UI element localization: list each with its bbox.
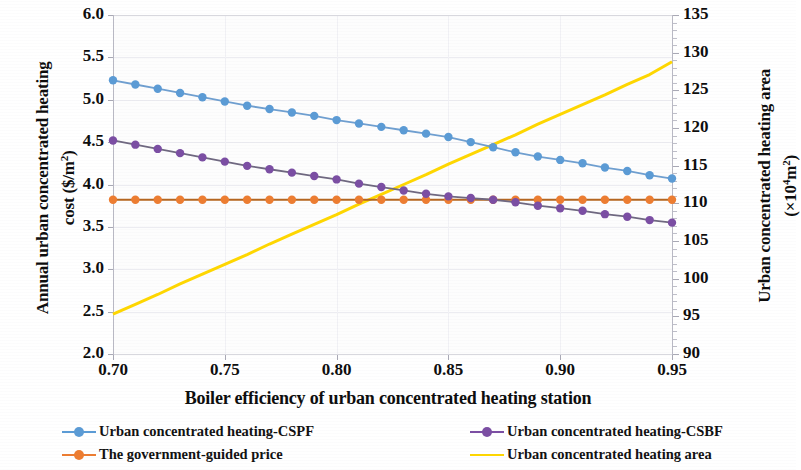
x-axis-tick-labels: 0.700.750.800.850.900.95 <box>113 360 673 384</box>
data-point-marker <box>534 152 542 160</box>
y-axis-left-tick-label: 3.0 <box>83 258 104 278</box>
x-axis-tick-label: 0.90 <box>545 360 575 380</box>
y-axis-right-tick <box>673 128 679 129</box>
y-axis-right-minor-tick <box>673 113 677 114</box>
plot-area <box>113 15 673 355</box>
data-point-marker <box>422 190 430 198</box>
series-line <box>113 80 672 178</box>
y-axis-right-minor-tick <box>673 324 677 325</box>
data-point-marker <box>310 112 318 120</box>
data-point-marker <box>623 196 631 204</box>
y-axis-right-minor-tick <box>673 45 677 46</box>
data-point-marker <box>243 101 251 109</box>
data-point-marker <box>243 162 251 170</box>
y-axis-right-tick-label: 100 <box>683 268 709 288</box>
y-axis-right-minor-tick <box>673 286 677 287</box>
y-axis-right-minor-tick <box>673 38 677 39</box>
y-axis-right-minor-tick <box>673 339 677 340</box>
data-point-marker <box>176 89 184 97</box>
y-axis-right-minor-tick <box>673 120 677 121</box>
y-axis-right-tick <box>673 316 679 317</box>
x-axis-tick <box>225 355 226 360</box>
x-axis-title: Boiler efficiency of urban concentrated … <box>78 388 698 408</box>
legend-item-heating-area[interactable]: Urban concentrated heating area <box>470 446 712 463</box>
data-point-marker <box>556 196 564 204</box>
data-point-marker <box>645 171 653 179</box>
data-point-marker <box>623 213 631 221</box>
legend-swatch-heating-area <box>470 449 504 461</box>
legend-label-csbf: Urban concentrated heating-CSBF <box>507 423 723 440</box>
data-point-marker <box>444 192 452 200</box>
y-axis-right-title: Urban concentrated heating area (×104m2) <box>755 21 801 351</box>
y-axis-right-minor-tick <box>673 68 677 69</box>
data-point-marker <box>288 168 296 176</box>
data-point-marker <box>601 163 609 171</box>
data-point-marker <box>310 172 318 180</box>
y-axis-right-minor-tick <box>673 188 677 189</box>
y-axis-right-minor-tick <box>673 309 677 310</box>
data-point-marker <box>332 175 340 183</box>
y-axis-right-tick-labels: 9095100105110115120125130135 <box>683 15 743 355</box>
data-point-marker <box>109 196 117 204</box>
data-point-marker <box>221 157 229 165</box>
data-point-marker <box>668 218 676 226</box>
data-point-marker <box>377 196 385 204</box>
y-axis-right-minor-tick <box>673 151 677 152</box>
data-point-marker <box>332 196 340 204</box>
y-axis-right-minor-tick <box>673 264 677 265</box>
data-point-marker <box>332 116 340 124</box>
data-point-marker <box>467 138 475 146</box>
data-point-marker <box>511 148 519 156</box>
y-axis-left-tick-label: 4.5 <box>83 131 104 151</box>
legend-swatch-csbf <box>470 426 504 438</box>
data-point-marker <box>131 80 139 88</box>
legend-item-cspf[interactable]: Urban concentrated heating-CSPF <box>62 423 314 440</box>
legend-label-cspf: Urban concentrated heating-CSPF <box>99 423 314 440</box>
legend: Urban concentrated heating-CSPF The gove… <box>0 421 796 469</box>
y-axis-right-minor-tick <box>673 271 677 272</box>
data-point-marker <box>265 165 273 173</box>
x-axis-tick <box>337 355 338 360</box>
y-axis-right-minor-tick <box>673 23 677 24</box>
y-axis-right-minor-tick <box>673 60 677 61</box>
y-axis-left-tick-label: 4.0 <box>83 174 104 194</box>
y-axis-right-tick-label: 115 <box>683 155 708 175</box>
data-point-marker <box>601 210 609 218</box>
data-point-marker <box>668 174 676 182</box>
y-axis-right-tick <box>673 279 679 280</box>
series-urban-concentrated-heating-cspf <box>109 76 676 183</box>
data-point-marker <box>310 196 318 204</box>
data-point-marker <box>399 126 407 134</box>
data-point-marker <box>154 145 162 153</box>
data-point-marker <box>265 105 273 113</box>
data-point-marker <box>645 216 653 224</box>
y-axis-right-tick <box>673 53 679 54</box>
legend-swatch-government-guided-price <box>62 449 96 461</box>
y-axis-right-minor-tick <box>673 30 677 31</box>
data-point-marker <box>601 196 609 204</box>
x-axis-tick-label: 0.70 <box>98 360 128 380</box>
y-axis-right-tick <box>673 166 679 167</box>
data-series-layer <box>113 15 673 355</box>
data-point-marker <box>645 196 653 204</box>
data-point-marker <box>578 196 586 204</box>
x-axis-tick-label: 0.95 <box>657 360 687 380</box>
data-point-marker <box>288 108 296 116</box>
data-point-marker <box>355 119 363 127</box>
y-axis-right-minor-tick <box>673 143 677 144</box>
y-axis-right-minor-tick <box>673 173 677 174</box>
legend-item-government-guided-price[interactable]: The government-guided price <box>62 446 283 463</box>
y-axis-right-minor-tick <box>673 211 677 212</box>
y-axis-right-minor-tick <box>673 249 677 250</box>
y-axis-right-minor-tick <box>673 294 677 295</box>
y-axis-right-minor-tick <box>673 256 677 257</box>
y-axis-right-minor-tick <box>673 83 677 84</box>
x-axis-tick-label: 0.75 <box>210 360 240 380</box>
data-point-marker <box>489 196 497 204</box>
data-point-marker <box>265 196 273 204</box>
x-axis-tick-label: 0.85 <box>434 360 464 380</box>
y-axis-right-tick <box>673 354 679 355</box>
legend-item-csbf[interactable]: Urban concentrated heating-CSBF <box>470 423 723 440</box>
y-axis-right-minor-tick <box>673 105 677 106</box>
legend-label-heating-area: Urban concentrated heating area <box>507 446 712 463</box>
